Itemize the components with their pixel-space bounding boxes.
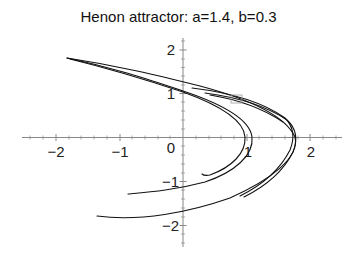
y-tick-label: −1 bbox=[162, 173, 179, 190]
x-tick-labels: −2 −1 0 1 2 bbox=[47, 139, 315, 160]
x-tick-label: −1 bbox=[111, 143, 128, 160]
x-tick-label: 2 bbox=[307, 143, 315, 160]
y-tick-label: 2 bbox=[167, 41, 175, 58]
y-tick-label: −2 bbox=[162, 217, 179, 234]
plot-area: −2 −1 0 1 2 2 1 −1 −2 bbox=[0, 0, 357, 260]
curve-second-fold-inner bbox=[70, 59, 245, 175]
x-tick-label: −2 bbox=[47, 143, 64, 160]
curve-second-fold bbox=[67, 58, 252, 194]
curve-inner-fold-a bbox=[192, 88, 293, 196]
y-axis bbox=[180, 38, 187, 247]
x-tick-label: 0 bbox=[167, 139, 175, 156]
